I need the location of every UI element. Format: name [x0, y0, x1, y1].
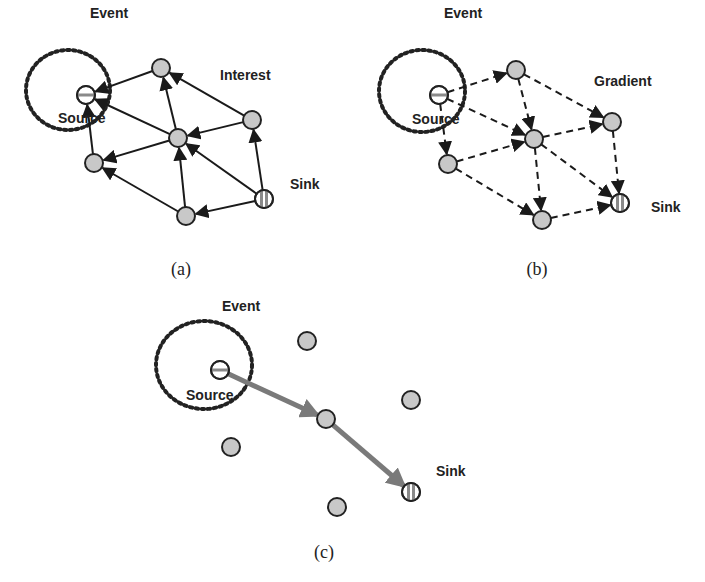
sink-node [402, 483, 420, 501]
caption-a: (a) [171, 259, 191, 280]
center-node [169, 129, 187, 147]
interest-edge [254, 130, 263, 190]
bottom-node [177, 207, 195, 225]
directed-diffusion-figure: EventInterestSourceSink(a)EventGradientS… [0, 0, 705, 582]
sink-label-c: Sink [436, 463, 466, 479]
gradient-edge [456, 169, 534, 215]
source-node [77, 86, 95, 104]
center-node [525, 130, 543, 148]
event-label-a: Event [90, 5, 128, 21]
caption-c: (c) [314, 542, 334, 563]
top-node [298, 332, 316, 350]
right-node [243, 111, 261, 129]
sink-node [255, 190, 273, 208]
gradient-edge [457, 142, 525, 162]
gradient-edge [551, 205, 610, 218]
top-node [507, 61, 525, 79]
sink-node [611, 194, 629, 212]
gradient-label: Gradient [594, 73, 652, 89]
interest-edge [95, 99, 170, 134]
gradient-edge [541, 144, 612, 197]
gradient-edge [518, 79, 531, 130]
interest-edge [179, 148, 185, 207]
center-node [317, 410, 335, 428]
gradient-edge [543, 124, 602, 137]
gradient-edge [535, 148, 541, 210]
panel-c [156, 321, 420, 516]
diagram-canvas: EventInterestSourceSink(a)EventGradientS… [0, 0, 705, 582]
caption-b: (b) [527, 259, 548, 280]
left-node [439, 155, 457, 173]
data-path-edge [333, 425, 404, 486]
gradient-edge [524, 74, 603, 117]
interest-edge [163, 78, 176, 130]
gradient-edge [448, 73, 507, 92]
top-node [152, 59, 170, 77]
source-node [211, 361, 229, 379]
bottom-node [533, 211, 551, 229]
sink-label-b: Sink [651, 199, 681, 215]
source-label-c: Source [186, 387, 234, 403]
gradient-edge [613, 131, 619, 193]
source-label-a: Source [58, 110, 106, 126]
bottom-node [328, 498, 346, 516]
sink-label-a: Sink [290, 176, 320, 192]
interest-edge [103, 168, 179, 212]
event-label-c: Event [222, 298, 260, 314]
left-node [222, 438, 240, 456]
right-node [603, 113, 621, 131]
source-node [430, 86, 448, 104]
interest-edge [104, 141, 170, 161]
left-node [85, 154, 103, 172]
event-label-b: Event [444, 5, 482, 21]
interest-edge [196, 201, 255, 214]
source-label-b: Source [412, 111, 460, 127]
interest-label: Interest [220, 67, 271, 83]
panel-b [379, 50, 629, 229]
interest-edge [95, 71, 152, 92]
interest-edge [188, 122, 244, 136]
right-node [402, 391, 420, 409]
interest-edge [186, 144, 257, 194]
